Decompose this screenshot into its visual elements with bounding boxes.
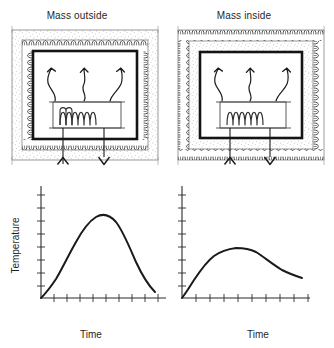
chart-svg-mass-inside: [170, 180, 334, 320]
chart-mass-inside: Time: [170, 180, 334, 348]
x-axis-label-time-right: Time: [176, 329, 334, 340]
panel-title-mass-inside: Mass inside: [162, 10, 326, 21]
panel-mass-outside: Mass outside: [0, 0, 170, 348]
x-axis-label-time-left: Time: [6, 329, 176, 340]
diagram-svg-mass-inside: [170, 24, 334, 172]
diagram-svg-mass-outside: [0, 24, 170, 172]
chart-svg-mass-outside: [0, 180, 170, 320]
radiator-inside: [216, 102, 291, 128]
chart-mass-outside: Temperature Time: [0, 180, 170, 348]
panel-title-mass-outside: Mass outside: [0, 10, 162, 21]
chart-axes-right: [182, 186, 310, 298]
figure-root: Mass outside: [0, 0, 334, 348]
panel-mass-inside: Mass inside: [170, 0, 334, 348]
diagram-mass-inside: [170, 24, 334, 172]
temperature-curve-mass-inside: [182, 248, 302, 298]
diagram-mass-outside: [0, 24, 170, 172]
radiator-outside: [49, 102, 125, 128]
y-axis-label-temperature: Temperature: [10, 201, 21, 291]
temperature-curve-mass-outside: [41, 215, 155, 298]
